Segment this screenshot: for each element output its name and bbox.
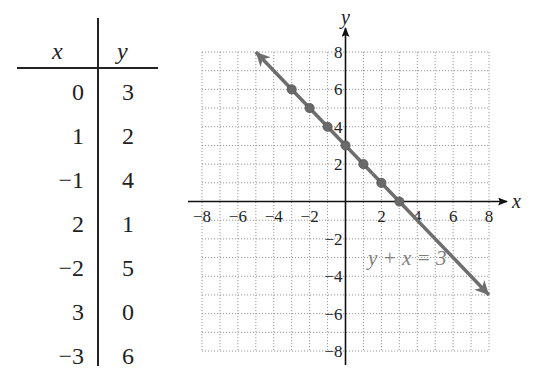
y-axis-label: y [339, 6, 350, 29]
data-point [359, 160, 368, 169]
y-tick-label: 6 [334, 80, 343, 99]
data-point [287, 85, 296, 94]
y-tick-label: −8 [324, 342, 342, 361]
data-point [323, 122, 332, 131]
y-tick-label: −4 [324, 267, 343, 286]
x-axis-label: x [511, 190, 521, 212]
x-tick-label: −8 [193, 207, 211, 226]
x-tick-label: −2 [301, 207, 319, 226]
y-tick-label: 8 [334, 43, 343, 62]
x-tick-label: 8 [485, 207, 494, 226]
data-point [395, 197, 404, 206]
coordinate-graph: −8−6−4−224688642−2−4−6−8 y + x = 3 x y [0, 0, 537, 384]
x-tick-label: −4 [265, 207, 284, 226]
y-tick-label: −2 [324, 230, 342, 249]
y-tick-label: −6 [324, 305, 342, 324]
equation-label: y + x = 3 [366, 246, 446, 270]
data-point [305, 103, 314, 112]
y-tick-label: 2 [334, 155, 343, 174]
x-tick-label: 6 [449, 207, 458, 226]
data-point [341, 141, 350, 150]
x-tick-label: −6 [229, 207, 247, 226]
data-point [377, 178, 386, 187]
x-tick-label: 2 [377, 207, 386, 226]
axes [188, 28, 507, 365]
